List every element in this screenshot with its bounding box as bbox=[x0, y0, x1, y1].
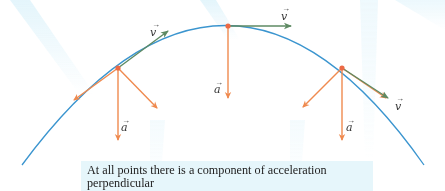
trajectory-diagram: v → a → v → a → v → a → At all bbox=[0, 0, 445, 191]
arrow-accent-a-left: → bbox=[122, 116, 130, 125]
arrow-accent-v-top: → bbox=[282, 4, 290, 13]
arrow-accent-a-top: → bbox=[215, 78, 223, 87]
velocity-arrow-left bbox=[118, 31, 168, 68]
perpendicular-component-right bbox=[303, 68, 342, 107]
caption-box: At all points there is a component of ac… bbox=[81, 161, 373, 191]
point-marker-left bbox=[115, 65, 120, 70]
arrow-accent-v-left: → bbox=[152, 20, 160, 29]
caption-line-1: At all points there is a component of ac… bbox=[87, 164, 373, 190]
caption-line-2: to the trajectory: The direction of moti… bbox=[87, 190, 373, 191]
point-marker-top bbox=[225, 23, 230, 28]
arrow-accent-a-right: → bbox=[347, 116, 355, 125]
arrow-accent-v-right: → bbox=[396, 94, 404, 103]
point-right-vectors: v → a → bbox=[303, 65, 404, 140]
point-marker-right bbox=[339, 65, 344, 70]
perpendicular-component-left bbox=[118, 68, 157, 108]
